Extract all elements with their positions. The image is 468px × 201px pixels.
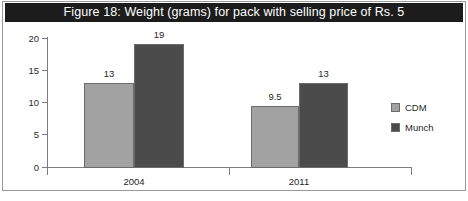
x-tick-mark-start xyxy=(47,168,48,175)
legend-swatch-cdm-icon xyxy=(391,103,400,112)
bar-munch-2004[interactable] xyxy=(134,44,184,168)
y-tick-mark-15 xyxy=(42,70,47,71)
bar-value-munch-2011: 13 xyxy=(299,68,348,79)
figure-frame: Figure 18: Weight (grams) for pack with … xyxy=(2,1,466,191)
y-tick-mark-20 xyxy=(42,38,47,39)
bar-cdm-2004[interactable] xyxy=(84,83,134,168)
bar-value-cdm-2004: 13 xyxy=(84,68,134,79)
y-axis-label-20: 20 xyxy=(5,33,39,44)
legend-swatch-munch-icon xyxy=(391,123,400,132)
bar-value-munch-2004: 19 xyxy=(134,29,184,40)
y-axis-line xyxy=(47,37,48,168)
y-tick-mark-5 xyxy=(42,134,47,135)
legend-label-cdm: CDM xyxy=(405,102,427,113)
x-axis-label-2011: 2011 xyxy=(249,176,349,187)
y-axis-label-10: 10 xyxy=(5,97,39,108)
x-tick-mark-middle xyxy=(229,168,230,175)
legend-item-munch[interactable]: Munch xyxy=(391,118,434,138)
legend-label-munch: Munch xyxy=(405,122,434,133)
chart-plot-area: 20 15 10 5 0 13 19 2004 9.5 13 xyxy=(3,2,467,190)
legend-item-cdm[interactable]: CDM xyxy=(391,98,434,118)
chart-legend: CDM Munch xyxy=(391,98,434,138)
y-tick-mark-10 xyxy=(42,102,47,103)
x-tick-mark-end xyxy=(411,168,412,175)
bar-cdm-2011[interactable] xyxy=(251,106,299,168)
y-axis-label-0: 0 xyxy=(5,162,39,173)
bar-value-cdm-2011: 9.5 xyxy=(251,91,299,102)
y-axis-label-15: 15 xyxy=(5,65,39,76)
bar-munch-2011[interactable] xyxy=(299,83,348,168)
x-axis-label-2004: 2004 xyxy=(84,176,184,187)
y-axis-label-5: 5 xyxy=(5,129,39,140)
